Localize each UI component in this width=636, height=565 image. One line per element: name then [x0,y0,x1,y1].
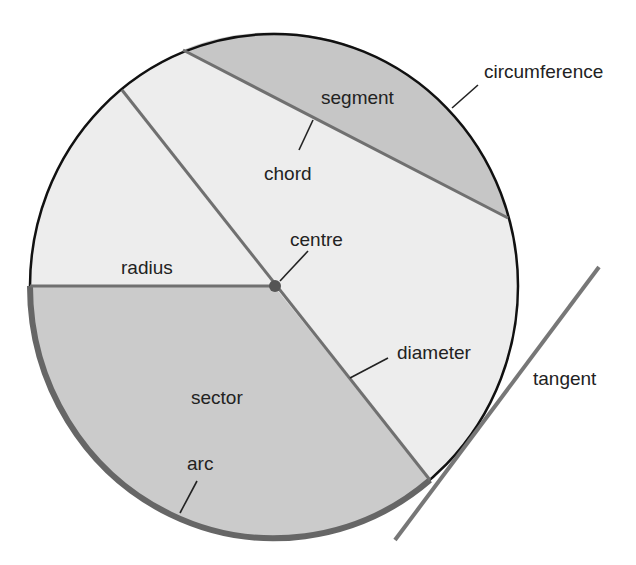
label-diameter: diameter [397,342,472,363]
label-sector: sector [191,387,243,408]
circumference-leader [452,85,478,108]
label-tangent: tangent [533,368,597,389]
label-arc: arc [187,453,213,474]
label-radius: radius [121,257,173,278]
label-segment: segment [321,87,395,108]
label-centre: centre [290,229,343,250]
circle-diagram: circumference segment chord centre radiu… [0,0,636,565]
centre-dot [269,280,281,292]
label-circumference: circumference [484,61,603,82]
label-chord: chord [264,163,312,184]
